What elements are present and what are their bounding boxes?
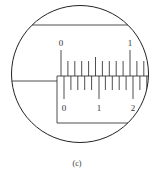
lower-scale-ticks (64, 76, 147, 99)
magnifier-circle (12, 6, 149, 143)
lower-label-2: 2 (131, 103, 136, 113)
upper-scale-ticks (61, 50, 144, 76)
upper-label-0: 0 (59, 38, 64, 48)
vernier-box (57, 76, 156, 123)
figure-caption: (c) (73, 159, 82, 168)
lower-label-1: 1 (97, 103, 102, 113)
vernier-caliper-diagram: 0 1 0 1 2 (c) (0, 0, 156, 177)
upper-label-1: 1 (128, 38, 133, 48)
lower-label-0: 0 (62, 103, 67, 113)
